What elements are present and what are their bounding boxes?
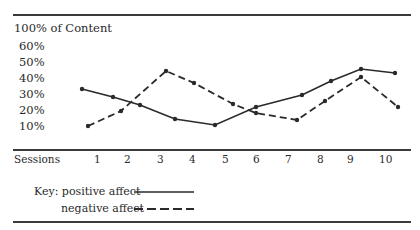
positive-affect-markers <box>80 67 397 127</box>
legend-entry-positive: Key: positive affect <box>34 185 140 198</box>
series-positive-affect <box>80 67 397 127</box>
legend-entry-negative: negative affect <box>61 202 144 215</box>
negative-affect-markers <box>86 69 400 128</box>
legend-positive-label: positive affect <box>62 185 140 198</box>
legend-key-prefix: Key: <box>34 185 58 198</box>
series-negative-affect <box>86 69 400 128</box>
legend-negative-label: negative affect <box>61 202 144 215</box>
